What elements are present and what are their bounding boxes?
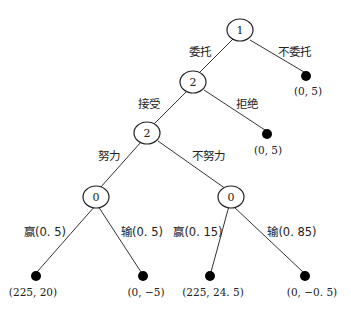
node-player-2-upper-label: 2 bbox=[190, 76, 197, 89]
leaf-not-delegate bbox=[301, 71, 311, 81]
node-player-1-label: 1 bbox=[237, 24, 244, 37]
edge-lose-2 bbox=[233, 206, 303, 272]
edge-win-2 bbox=[211, 206, 229, 272]
payoff-reject: (0, 5) bbox=[254, 144, 282, 156]
node-player-2-lower: 2 bbox=[134, 122, 160, 144]
edge-label-lose-2: 输(0. 85) bbox=[267, 225, 316, 239]
leaf-effort-lose bbox=[138, 271, 148, 281]
node-chance-left-label: 0 bbox=[93, 191, 100, 204]
edge-label-no-effort: 不努力 bbox=[192, 149, 225, 163]
edge-label-win-2: 赢(0. 15) bbox=[173, 225, 222, 239]
edge-label-win-1: 赢(0. 5) bbox=[24, 225, 66, 239]
leaf-no-effort-lose bbox=[300, 271, 310, 281]
node-chance-right-label: 0 bbox=[228, 191, 235, 204]
edge-lose-1 bbox=[98, 206, 141, 272]
edge-label-lose-1: 输(0. 5) bbox=[121, 225, 163, 239]
leaf-effort-win bbox=[31, 271, 41, 281]
edge-label-effort: 努力 bbox=[98, 149, 120, 163]
payoff-not-delegate: (0, 5) bbox=[294, 85, 322, 97]
edge-win-1 bbox=[37, 206, 95, 272]
edge-label-delegate: 委托 bbox=[189, 45, 212, 59]
leaf-reject bbox=[262, 129, 272, 139]
edge-label-accept: 接受 bbox=[138, 97, 160, 111]
payoff-effort-win: (225, 20) bbox=[9, 286, 57, 298]
payoff-no-effort-win: (225, 24. 5) bbox=[182, 286, 244, 298]
edge-label-not-delegate: 不委托 bbox=[278, 45, 312, 59]
node-player-1: 1 bbox=[227, 19, 253, 41]
node-chance-left: 0 bbox=[83, 186, 109, 208]
leaf-no-effort-win bbox=[205, 271, 215, 281]
node-player-2-upper: 2 bbox=[180, 71, 206, 93]
payoff-effort-lose: (0, −5) bbox=[127, 286, 164, 298]
payoff-no-effort-lose: (0, −0. 5) bbox=[287, 286, 337, 298]
node-chance-right: 0 bbox=[218, 186, 244, 208]
game-tree-diagram: 1 2 2 0 0 委托 不委托 接受 拒绝 努力 不努力 赢(0. 5) 输(… bbox=[0, 0, 351, 312]
node-player-2-lower-label: 2 bbox=[144, 127, 151, 140]
edge-label-reject: 拒绝 bbox=[236, 97, 258, 111]
